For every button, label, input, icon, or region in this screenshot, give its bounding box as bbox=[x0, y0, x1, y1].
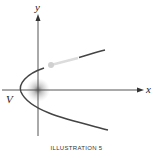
y-axis-label: y bbox=[34, 1, 40, 13]
highlight-segment bbox=[51, 58, 78, 65]
parabola-diagram: y x V bbox=[0, 0, 153, 158]
parabola-upper-branch bbox=[79, 50, 105, 58]
vertex-label: V bbox=[6, 93, 14, 105]
x-axis-arrow-icon bbox=[137, 88, 144, 93]
x-axis-label: x bbox=[145, 83, 151, 95]
highlight-point bbox=[48, 62, 54, 68]
y-axis-arrow-icon bbox=[36, 14, 41, 21]
figure-caption: ILLUSTRATION 5 bbox=[0, 145, 153, 151]
